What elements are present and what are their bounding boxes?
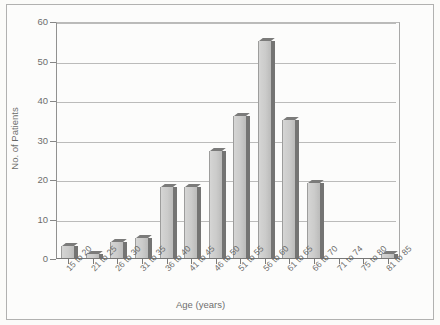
bar-slot	[57, 21, 82, 258]
bar-slot	[106, 21, 131, 258]
y-axis-tick-label: 0	[26, 254, 48, 264]
bar[interactable]	[282, 120, 295, 258]
y-axis-tick-label: 40	[26, 96, 48, 106]
bar-slot	[82, 21, 107, 258]
bar-slot	[180, 21, 205, 258]
bar-slot	[131, 21, 156, 258]
y-axis-label-wrapper: No. of Patients	[6, 105, 20, 205]
plot-area	[56, 22, 400, 259]
bar[interactable]	[209, 151, 222, 258]
y-axis-label: No. of Patients	[9, 99, 20, 179]
x-axis-label: Age (years)	[176, 299, 225, 310]
bar-slot	[204, 21, 229, 258]
bar-slot	[229, 21, 254, 258]
y-axis-tick-label: 30	[26, 136, 48, 146]
y-axis-tick-label: 20	[26, 175, 48, 185]
bar-slot	[376, 21, 401, 258]
bar-series	[57, 21, 401, 258]
y-axis-tick-mark	[50, 259, 56, 260]
bar-chart: No. of Patients 0102030405060 15 to 2021…	[0, 0, 440, 325]
bar-slot	[278, 21, 303, 258]
bar-slot	[254, 21, 279, 258]
bar-slot	[352, 21, 377, 258]
bar-slot	[155, 21, 180, 258]
y-axis-tick-label: 60	[26, 17, 48, 27]
bar[interactable]	[233, 116, 246, 258]
bar[interactable]	[258, 41, 271, 258]
y-axis-tick-label: 50	[26, 57, 48, 67]
bar-slot	[303, 21, 328, 258]
bar-slot	[327, 21, 352, 258]
figure-page: No. of Patients 0102030405060 15 to 2021…	[0, 0, 440, 325]
y-axis-tick-label: 10	[26, 215, 48, 225]
